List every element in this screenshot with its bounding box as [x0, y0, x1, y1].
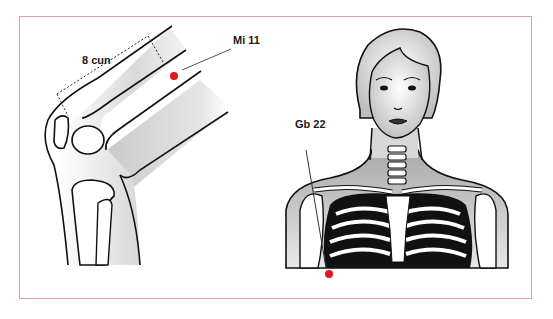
acupoint-gb22-marker: [325, 270, 333, 278]
anatomy-illustration: [0, 0, 553, 319]
torso-drawing: [286, 29, 508, 268]
measurement-label: 8 cun: [82, 54, 111, 66]
acupoint-label-mi11: Mi 11: [233, 34, 260, 46]
acupoint-mi11-marker: [170, 72, 178, 80]
knee-drawing: [45, 26, 231, 265]
acupoint-label-gb22: Gb 22: [295, 118, 326, 130]
